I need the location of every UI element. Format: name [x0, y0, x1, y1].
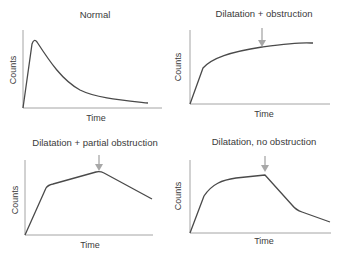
- curve-line: [23, 40, 148, 108]
- panel-dilatation-partial-obstruction: Dilatation + partial obstruction Counts …: [10, 137, 158, 250]
- panel-normal: Normal Counts Time: [8, 9, 162, 123]
- curve-line: [190, 175, 330, 233]
- curve-line: [25, 172, 152, 235]
- panel-title: Normal: [80, 9, 111, 20]
- x-axis-label: Time: [86, 113, 106, 123]
- renogram-diagram: Normal Counts Time Dilatation + obstruct…: [0, 0, 338, 259]
- axes: [23, 30, 162, 108]
- axes: [25, 160, 153, 235]
- panel-title: Dilatation + partial obstruction: [32, 137, 157, 148]
- y-axis-label: Counts: [10, 185, 20, 214]
- panel-title: Dilatation + obstruction: [216, 8, 313, 19]
- x-axis-label: Time: [254, 236, 274, 246]
- y-axis-label: Counts: [173, 52, 183, 81]
- diuretic-arrow-icon: [261, 156, 269, 172]
- curve-line: [190, 43, 313, 104]
- x-axis-label: Time: [80, 240, 100, 250]
- diuretic-arrow-icon: [258, 28, 266, 47]
- y-axis-label: Counts: [8, 55, 18, 84]
- axes: [190, 160, 331, 233]
- panel-dilatation-obstruction: Dilatation + obstruction Counts Time: [173, 8, 330, 119]
- panel-dilatation-no-obstruction: Dilatation, no obstruction Counts Time: [173, 136, 331, 246]
- diuretic-arrow-icon: [95, 155, 103, 171]
- panel-title: Dilatation, no obstruction: [212, 136, 317, 147]
- x-axis-label: Time: [254, 109, 274, 119]
- y-axis-label: Counts: [173, 181, 183, 210]
